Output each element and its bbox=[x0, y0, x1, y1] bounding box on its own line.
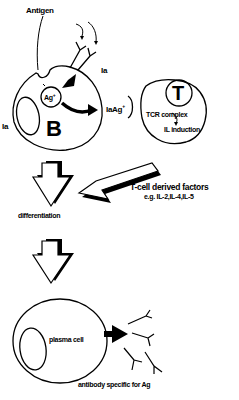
antigen-label: Antigen bbox=[26, 6, 54, 15]
differentiation-label: differentiation bbox=[18, 212, 60, 219]
antigen-arrows bbox=[76, 22, 96, 42]
internalization-arrow bbox=[62, 74, 76, 88]
diagram-canvas bbox=[0, 0, 239, 400]
ag-plus-label: Ag+ bbox=[44, 92, 55, 101]
ia-ag-label: IaAg+ bbox=[106, 103, 125, 114]
t-cell-factors-label: T-cell derived factors bbox=[130, 182, 208, 192]
antigen-pointer bbox=[37, 16, 43, 70]
antibody-specific-label: antibody specific for Ag bbox=[78, 381, 150, 388]
ia-label-top: Ia bbox=[101, 66, 107, 75]
factors-examples-label: e.g. IL-2,IL-4,IL-5 bbox=[144, 193, 194, 200]
presentation-arrow bbox=[62, 103, 92, 112]
surface-receptors bbox=[70, 42, 96, 70]
t-cell-label: T bbox=[172, 82, 184, 105]
down-arrow-2 bbox=[33, 239, 74, 283]
plasma-cell-label: plasma cell bbox=[49, 336, 83, 343]
ia-label-left: Ia bbox=[2, 122, 8, 131]
il-induction-label: IL induction bbox=[164, 126, 200, 133]
b-cell-label: B bbox=[46, 116, 62, 142]
antibodies bbox=[124, 310, 162, 374]
interaction-bracket bbox=[128, 96, 133, 118]
down-arrow-1 bbox=[33, 161, 74, 206]
tcr-complex-label: TCR complex bbox=[146, 111, 187, 118]
